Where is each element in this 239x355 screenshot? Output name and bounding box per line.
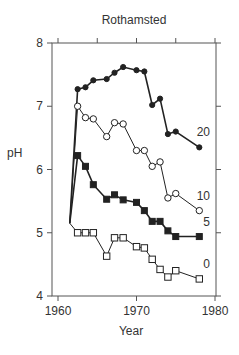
chart-title: Rothamsted — [102, 13, 167, 27]
data-point — [120, 235, 126, 241]
data-point — [121, 64, 126, 69]
data-point — [82, 163, 88, 169]
data-point — [173, 129, 178, 134]
series-label-0: 0 — [203, 257, 210, 271]
data-point — [103, 253, 109, 259]
x-axis-label: Year — [119, 324, 143, 338]
data-point — [104, 76, 109, 81]
data-point — [149, 218, 155, 224]
data-point — [103, 133, 109, 139]
data-point — [134, 68, 139, 73]
data-point — [165, 131, 170, 136]
data-point — [149, 256, 155, 262]
data-point — [197, 145, 202, 150]
series-label-20: 20 — [197, 125, 211, 139]
data-point — [157, 266, 163, 272]
y-tick-label: 8 — [36, 36, 43, 50]
x-tick-label: 1960 — [45, 304, 72, 318]
data-point — [165, 274, 171, 280]
data-point — [90, 230, 96, 236]
data-point — [120, 121, 126, 127]
data-point — [74, 230, 80, 236]
x-tick-label: 1970 — [123, 304, 150, 318]
y-tick-label: 4 — [36, 289, 43, 303]
data-point — [173, 190, 179, 196]
data-point — [173, 234, 179, 240]
series-label-5: 5 — [203, 215, 210, 229]
data-point — [150, 102, 155, 107]
y-tick-label: 7 — [36, 99, 43, 113]
data-point — [134, 199, 140, 205]
data-point — [83, 85, 88, 90]
data-point — [90, 182, 96, 188]
data-point — [157, 96, 162, 101]
data-point — [104, 196, 110, 202]
data-point — [157, 159, 163, 165]
data-point — [82, 114, 88, 120]
data-point — [142, 69, 147, 74]
data-point — [112, 192, 118, 198]
ph-line-chart: 45678196019701980RothamstedYearpH201050 — [0, 0, 239, 355]
data-point — [196, 234, 202, 240]
data-point — [141, 245, 147, 251]
data-point — [157, 218, 163, 224]
data-point — [111, 235, 117, 241]
data-point — [141, 147, 147, 153]
data-point — [111, 119, 117, 125]
data-point — [74, 103, 80, 109]
y-tick-label: 5 — [36, 226, 43, 240]
data-point — [196, 276, 202, 282]
y-tick-label: 6 — [36, 163, 43, 177]
data-point — [75, 153, 81, 159]
data-point — [133, 147, 139, 153]
data-point — [75, 87, 80, 92]
data-point — [91, 78, 96, 83]
data-point — [165, 195, 171, 201]
data-point — [112, 70, 117, 75]
series-label-10: 10 — [197, 189, 211, 203]
data-point — [173, 268, 179, 274]
y-axis-label: pH — [7, 146, 22, 160]
series-line-0 — [70, 223, 200, 279]
data-point — [149, 163, 155, 169]
data-point — [165, 228, 171, 234]
data-point — [82, 230, 88, 236]
data-point — [120, 197, 126, 203]
x-tick-label: 1980 — [202, 304, 229, 318]
data-point — [196, 207, 202, 213]
data-point — [141, 208, 147, 214]
data-point — [133, 243, 139, 249]
data-point — [90, 116, 96, 122]
